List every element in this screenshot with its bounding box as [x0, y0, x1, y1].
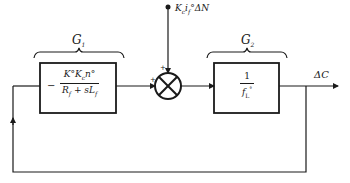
g1-label: G1: [72, 34, 85, 48]
g2-fraction-bar: [240, 83, 254, 84]
g2-denominator: fL°: [240, 86, 254, 99]
g2-label: G2: [241, 34, 254, 48]
sum-sign-top: +: [160, 64, 166, 72]
g1-denominator: Rf + sLf: [60, 86, 99, 97]
g2-transfer-function: 1 fL°: [240, 72, 254, 99]
g1-fraction-bar: [60, 83, 99, 84]
feedback-path: [13, 86, 306, 172]
disturbance-label: Kcif°ΔN: [175, 4, 209, 15]
g2-brace: [207, 48, 287, 58]
g1-transfer-function: K°Kcn° Rf + sLf: [60, 70, 99, 97]
g1-sign: −: [47, 80, 55, 91]
output-label: ΔC: [314, 70, 329, 80]
disturbance-source-dot: [166, 5, 171, 10]
sum-sign-left: +: [150, 76, 156, 84]
g1-numerator: K°Kcn°: [62, 70, 98, 81]
g1-brace: [34, 48, 124, 58]
block-diagram: G1 G2 − K°Kcn° Rf + sLf 1 fL° + + Kcif°Δ…: [0, 0, 350, 183]
diagram-lines: [0, 0, 350, 183]
g2-numerator: 1: [242, 72, 252, 81]
